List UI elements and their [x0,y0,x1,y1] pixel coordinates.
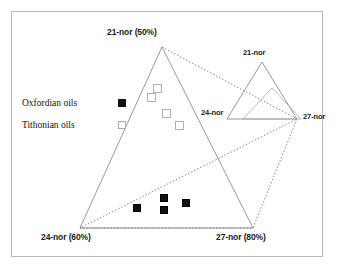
data-point-oxfordian [133,204,141,212]
data-point-oxfordian [182,199,190,207]
legend-item-oxfordian: Oxfordian oils [22,92,130,114]
axis-label-bottom-right: 27-nor (80%) [216,232,266,242]
legend-label-oxfordian: Oxfordian oils [22,98,77,108]
data-point-oxfordian [160,206,168,214]
legend-label-tithonian: Tithonian oils [22,120,75,130]
inner-label-left: 24-nor [201,108,223,117]
figure-container: 21-nor (50%) 24-nor (60%) 27-nor (80%) 2… [0,0,337,272]
open-square-icon [118,121,126,129]
legend-item-tithonian: Tithonian oils [22,114,130,136]
data-point-tithonian [147,93,156,102]
axis-label-top: 21-nor (50%) [107,27,157,37]
inner-triangle-inner [243,88,301,119]
inner-triangle-outer [227,62,297,119]
data-point-tithonian [162,109,171,118]
inner-label-top: 21-nor [243,48,265,57]
data-point-tithonian [153,84,162,93]
data-point-oxfordian [160,194,168,202]
axis-label-bottom-left: 24-nor (60%) [41,232,91,242]
filled-square-icon [118,99,126,107]
legend: Oxfordian oils Tithonian oils [22,92,130,136]
inner-label-right: 27-nor [303,112,325,121]
data-point-tithonian [175,121,184,130]
